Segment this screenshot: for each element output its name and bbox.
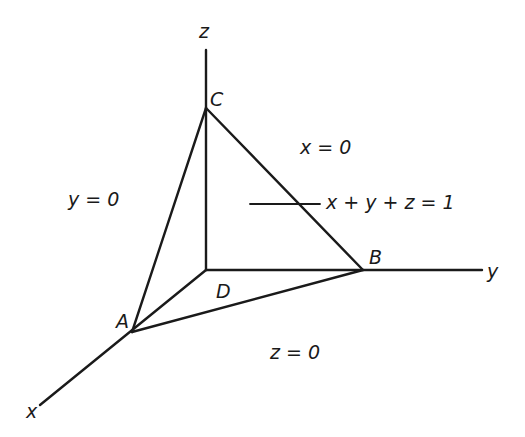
point-D-label: D bbox=[216, 282, 231, 301]
plane-x0-label: x = 0 bbox=[300, 138, 351, 157]
diagram-lines bbox=[0, 0, 525, 437]
point-B-label: B bbox=[369, 248, 382, 267]
point-C-label: C bbox=[210, 90, 223, 109]
tetrahedron-diagram: z C x = 0 y = 0 x + y + z = 1 B y D A z … bbox=[0, 0, 525, 437]
plane-xyz1-label: x + y + z = 1 bbox=[326, 193, 455, 212]
plane-y0-label: y = 0 bbox=[68, 190, 119, 209]
x-axis bbox=[40, 270, 206, 405]
y-axis-label: y bbox=[487, 262, 498, 281]
z-axis-label: z bbox=[199, 22, 209, 41]
point-A-label: A bbox=[116, 312, 129, 331]
edge-CB bbox=[206, 108, 363, 270]
x-axis-label: x bbox=[26, 402, 37, 421]
plane-z0-label: z = 0 bbox=[270, 343, 320, 362]
edge-CA bbox=[132, 108, 206, 332]
